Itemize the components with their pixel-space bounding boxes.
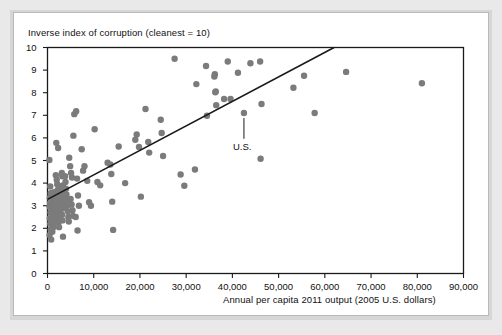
y-tick-label: 9 bbox=[21, 64, 37, 75]
y-tick-label: 5 bbox=[21, 155, 37, 166]
data-point bbox=[73, 108, 79, 114]
y-tick-label: 3 bbox=[21, 200, 37, 211]
data-point bbox=[158, 130, 164, 136]
data-point bbox=[76, 203, 82, 209]
x-tick-label: 70,000 bbox=[347, 281, 395, 292]
data-point bbox=[81, 163, 87, 169]
y-tick-label: 7 bbox=[21, 109, 37, 120]
data-point bbox=[257, 58, 263, 64]
data-point bbox=[343, 69, 349, 75]
data-point bbox=[311, 110, 317, 116]
data-point bbox=[47, 183, 53, 189]
data-point bbox=[257, 155, 263, 161]
data-point bbox=[146, 149, 152, 155]
data-point bbox=[138, 193, 144, 199]
data-point bbox=[75, 192, 81, 198]
y-tick-label: 8 bbox=[21, 87, 37, 98]
data-point bbox=[235, 70, 241, 76]
data-point bbox=[67, 196, 73, 202]
data-point bbox=[247, 60, 253, 66]
data-point bbox=[70, 132, 76, 138]
data-point bbox=[46, 157, 52, 163]
x-tick-label: 40,000 bbox=[208, 281, 256, 292]
data-point bbox=[212, 89, 218, 95]
data-point bbox=[66, 218, 72, 224]
data-point bbox=[79, 146, 85, 152]
data-point bbox=[62, 179, 68, 185]
data-point bbox=[68, 201, 74, 207]
data-point bbox=[203, 63, 209, 69]
data-point bbox=[74, 175, 80, 181]
plot-frame bbox=[48, 48, 464, 274]
data-point bbox=[110, 227, 116, 233]
trendline bbox=[48, 48, 335, 200]
y-tick-label: 10 bbox=[21, 42, 37, 53]
data-point bbox=[160, 153, 166, 159]
y-tick-label: 2 bbox=[21, 222, 37, 233]
figure-root: Inverse index of corruption (cleanest = … bbox=[0, 0, 502, 335]
data-point bbox=[74, 227, 80, 233]
trendline-group bbox=[48, 48, 335, 200]
data-point bbox=[258, 101, 264, 107]
data-point bbox=[91, 126, 97, 132]
y-tick-label: 4 bbox=[21, 177, 37, 188]
data-point bbox=[221, 96, 227, 102]
data-point bbox=[142, 106, 148, 112]
data-point bbox=[59, 217, 65, 223]
x-tick-label: 80,000 bbox=[393, 281, 441, 292]
data-point bbox=[225, 58, 231, 64]
data-point bbox=[48, 236, 54, 242]
x-tick-label: 20,000 bbox=[116, 281, 164, 292]
data-point bbox=[122, 180, 128, 186]
data-point bbox=[192, 166, 198, 172]
x-tick-label: 90,000 bbox=[440, 281, 488, 292]
data-point bbox=[69, 207, 75, 213]
data-point bbox=[73, 214, 79, 220]
x-tick-label: 0 bbox=[24, 281, 72, 292]
data-point bbox=[213, 102, 219, 108]
x-tick-label: 60,000 bbox=[301, 281, 349, 292]
data-point bbox=[301, 73, 307, 79]
data-point bbox=[88, 203, 94, 209]
data-point bbox=[241, 110, 247, 116]
data-point bbox=[171, 56, 177, 62]
y-tick-label: 0 bbox=[21, 268, 37, 279]
data-point bbox=[50, 224, 56, 230]
data-point bbox=[211, 73, 217, 79]
data-points-group bbox=[46, 56, 425, 243]
data-point bbox=[108, 171, 114, 177]
x-tick-label: 50,000 bbox=[255, 281, 303, 292]
data-point bbox=[55, 145, 61, 151]
data-point bbox=[59, 212, 65, 218]
data-point bbox=[158, 117, 164, 123]
axes-group bbox=[48, 48, 464, 274]
data-point bbox=[177, 171, 183, 177]
data-point bbox=[66, 155, 72, 161]
y-tick-label: 6 bbox=[21, 132, 37, 143]
data-point bbox=[56, 224, 62, 230]
x-tick-label: 30,000 bbox=[162, 281, 210, 292]
y-tick-label: 1 bbox=[21, 245, 37, 256]
data-point bbox=[181, 183, 187, 189]
x-tick-label: 10,000 bbox=[70, 281, 118, 292]
data-point bbox=[97, 182, 103, 188]
data-point bbox=[60, 233, 66, 239]
data-point bbox=[419, 80, 425, 86]
data-point bbox=[193, 81, 199, 87]
data-point bbox=[290, 85, 296, 91]
data-point bbox=[67, 163, 73, 169]
data-point bbox=[109, 198, 115, 204]
data-point bbox=[115, 143, 121, 149]
data-point bbox=[134, 131, 140, 137]
data-point bbox=[62, 173, 68, 179]
